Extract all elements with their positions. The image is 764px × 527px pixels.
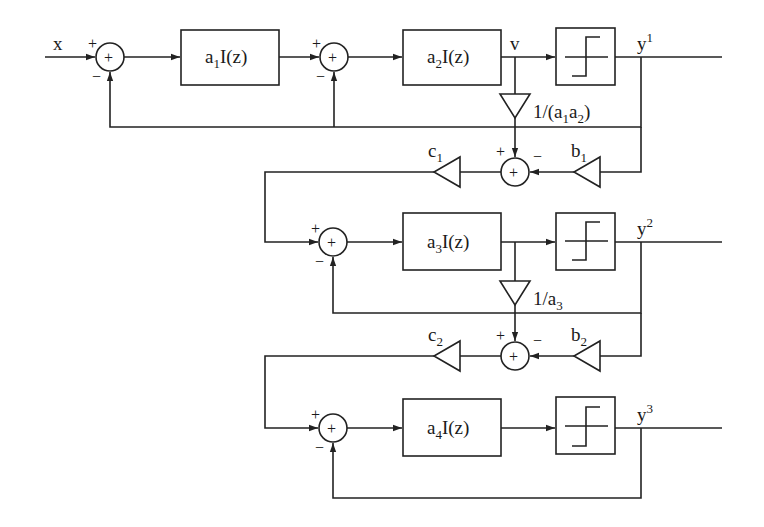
integrator-a1: a1I(z) [181,30,279,85]
minus-sign: − [316,68,325,85]
svg-text:+: + [311,406,320,423]
svg-text:+: + [496,327,505,344]
svg-text:1/a3: 1/a3 [533,288,563,313]
svg-text:+: + [327,420,336,437]
svg-text:−: − [315,439,324,456]
svg-text:+: + [311,220,320,237]
input-label-x: x [53,33,63,54]
svg-text:−: − [315,253,324,270]
quantizer-2 [556,213,615,270]
svg-text:+: + [104,49,113,66]
svg-text:−: − [533,332,542,349]
summing-junction-3: + + − [496,143,542,186]
integrator-a2: a2I(z) [403,30,501,85]
stage-3: + + − a4I(z) y3 [311,397,722,498]
gain-1-over-a1a2 [500,94,530,118]
plus-sign: + [312,35,321,52]
gain-b2 [574,341,600,371]
node-label-v: v [510,33,520,54]
svg-text:y3: y3 [637,401,653,425]
summing-junction-2: + + − [312,35,348,85]
svg-text:b1: b1 [571,140,587,165]
summing-junction-4: + + − [311,220,347,270]
svg-text:+: + [496,143,505,160]
plus-sign: + [88,35,97,52]
quantizer-1 [556,28,615,85]
summing-junction-6: + + − [311,406,347,456]
svg-text:+: + [327,234,336,251]
svg-text:+: + [509,164,518,181]
quantizer-3 [556,397,615,454]
stage-1: x + + − a1I(z) + + − a2I(z) v [45,28,722,127]
svg-text:+: + [509,348,518,365]
svg-text:+: + [328,49,337,66]
svg-text:y2: y2 [637,215,653,239]
svg-text:b2: b2 [571,324,587,349]
output-y2: y [637,218,647,239]
summing-junction-5: + + − [496,327,542,370]
svg-text:1/(a1a2): 1/(a1a2) [533,101,590,126]
svg-text:−: − [533,148,542,165]
gain-1-over-a3 [500,281,530,305]
svg-text:y1: y1 [637,30,653,54]
svg-text:c1: c1 [428,140,443,165]
gain-b1 [574,157,600,187]
output-y1: y [637,33,647,54]
integrator-a4: a4I(z) [403,399,501,456]
output-y3: y [637,404,647,425]
sigma-delta-block-diagram: x + + − a1I(z) + + − a2I(z) v [0,0,764,527]
svg-text:c2: c2 [428,324,443,349]
minus-sign: − [92,68,101,85]
integrator-a3: a3I(z) [403,213,501,270]
summing-junction-1: + + − [88,35,124,85]
